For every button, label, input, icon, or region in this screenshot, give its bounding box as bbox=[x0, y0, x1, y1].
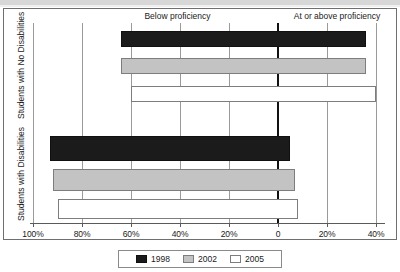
y-axis-label-no-disabilities: Students with No Disabilities bbox=[16, 12, 26, 119]
legend-item-1998: 1998 bbox=[136, 254, 170, 264]
bar-no-disabilities-1998 bbox=[121, 31, 366, 47]
x-axis-tick bbox=[33, 223, 34, 227]
scan-band-top-secondary bbox=[0, 5, 400, 7]
chart-plot-area: Students with No Disabilities Students w… bbox=[4, 9, 396, 239]
legend-swatch-2002-icon bbox=[183, 255, 194, 263]
gridline-40pct bbox=[180, 23, 181, 223]
chart-screenshot: Students with No Disabilities Students w… bbox=[0, 0, 400, 272]
bar-no-disabilities-2002 bbox=[121, 58, 366, 74]
legend-label-2002: 2002 bbox=[198, 254, 217, 264]
legend-item-2002: 2002 bbox=[183, 254, 217, 264]
x-axis-tick-label-7: 40% bbox=[368, 229, 385, 239]
region-label-below-proficiency: Below proficiency bbox=[144, 11, 210, 21]
x-axis-tick-label-3: 40% bbox=[172, 229, 189, 239]
x-axis-tick bbox=[278, 223, 279, 227]
x-axis-tick bbox=[376, 223, 377, 227]
region-label-at-or-above-proficiency: At or above proficiency bbox=[294, 11, 380, 21]
zero-reference-line bbox=[277, 23, 279, 223]
gridline-100pct bbox=[33, 23, 34, 223]
bar-disabilities-1998 bbox=[50, 136, 290, 161]
legend-swatch-1998-icon bbox=[136, 255, 147, 263]
x-axis-line bbox=[30, 223, 385, 224]
y-axis-label-disabilities: Students with Disabilities bbox=[16, 127, 26, 221]
x-axis-tick bbox=[82, 223, 83, 227]
legend-item-2005: 2005 bbox=[230, 254, 264, 264]
x-axis-tick bbox=[327, 223, 328, 227]
legend-swatch-2005-icon bbox=[230, 255, 241, 263]
x-axis-tick-label-2: 60% bbox=[123, 229, 140, 239]
gridline-20pct bbox=[229, 23, 230, 223]
legend-label-2005: 2005 bbox=[245, 254, 264, 264]
bar-no-disabilities-2005 bbox=[131, 86, 376, 102]
x-axis-tick-label-6: 20% bbox=[319, 229, 336, 239]
x-axis-tick bbox=[131, 223, 132, 227]
legend-label-1998: 1998 bbox=[151, 254, 170, 264]
chart-plot-frame: Students with No Disabilities Students w… bbox=[3, 8, 397, 240]
gridline-40pct bbox=[376, 23, 377, 223]
gridline-60pct bbox=[131, 23, 132, 223]
bar-disabilities-2002 bbox=[53, 169, 296, 191]
x-axis-tick-label-0: 100% bbox=[22, 229, 43, 239]
x-axis-tick-label-5: 0 bbox=[276, 229, 281, 239]
chart-legend: 1998 2002 2005 bbox=[118, 250, 282, 268]
gridline-20pct bbox=[327, 23, 328, 223]
x-axis-tick-label-4: 20% bbox=[221, 229, 238, 239]
bar-disabilities-2005 bbox=[58, 199, 298, 219]
x-axis-tick bbox=[229, 223, 230, 227]
x-axis-tick-label-1: 80% bbox=[74, 229, 91, 239]
x-axis-tick bbox=[180, 223, 181, 227]
gridline-80pct bbox=[82, 23, 83, 223]
